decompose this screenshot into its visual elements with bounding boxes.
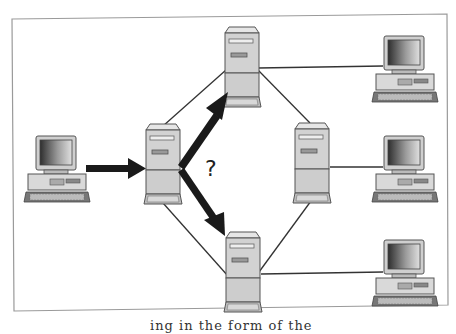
router-top-icon bbox=[223, 27, 261, 107]
router-right-icon bbox=[293, 123, 331, 203]
question-mark: ? bbox=[205, 156, 217, 181]
router-left-icon bbox=[144, 124, 182, 204]
caption-fragment: ing in the form of the bbox=[150, 318, 450, 334]
router-bottom-icon bbox=[224, 232, 262, 312]
